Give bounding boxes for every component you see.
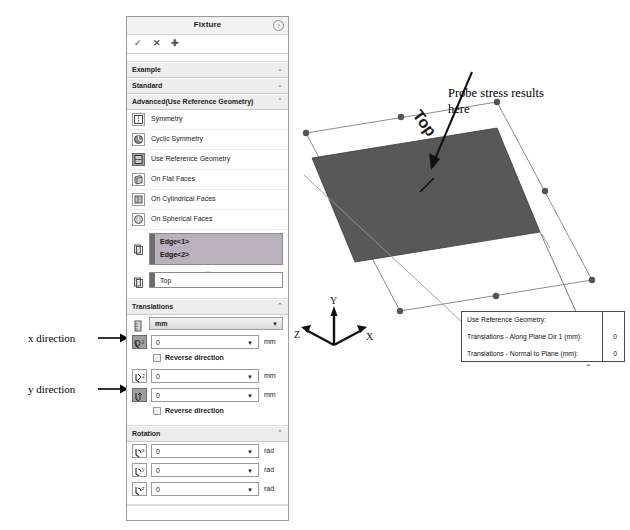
rotation-row-1: x 0 ▼ rad: [127, 442, 288, 461]
reverse-direction-checkbox-2[interactable]: [153, 407, 161, 415]
translation-unit-3: mm: [264, 391, 276, 398]
along-plane-dir2-icon[interactable]: 2: [132, 369, 147, 383]
selection-item-1[interactable]: Edge<1>: [160, 238, 189, 245]
rotation-row-3: z 0 ▼ rad: [127, 480, 288, 499]
rotation-y-icon[interactable]: y: [132, 463, 147, 477]
svg-text:y: y: [142, 466, 145, 472]
probe-annotation-text: Probe stress results here: [448, 86, 544, 116]
selection-color-bar: [150, 234, 155, 264]
translation-input-1[interactable]: 0 ▼: [151, 335, 259, 349]
section-header-advanced[interactable]: Advanced(Use Reference Geometry) ⌃: [127, 94, 288, 110]
section-header-standard[interactable]: Standard ⌄: [127, 78, 288, 94]
translation-input-2[interactable]: 0 ▼: [151, 369, 259, 383]
rotation-input-1[interactable]: 0 ▼: [151, 444, 259, 458]
chevron-down-icon[interactable]: ▼: [247, 340, 253, 346]
translation-row-3: 0 ▼ mm: [127, 386, 288, 405]
selection-item-2[interactable]: Edge<2>: [160, 251, 189, 258]
help-icon[interactable]: ?: [273, 20, 284, 31]
panel-spacer: [127, 54, 288, 62]
along-plane-dir1-icon[interactable]: 1: [132, 335, 147, 349]
coordinate-triad: Y Z X: [294, 295, 374, 345]
callout-value-1: 0: [613, 333, 617, 340]
reverse-direction-label-2: Reverse direction: [165, 407, 224, 414]
chevron-up-icon[interactable]: ⌃: [277, 97, 283, 105]
page-title: Fixture: [127, 20, 288, 29]
rotation-input-2[interactable]: 0 ▼: [151, 463, 259, 477]
translation-value-2: 0: [156, 373, 160, 380]
chevron-down-icon[interactable]: ▼: [272, 321, 278, 327]
callout-label-2: Translations - Normal to Plane (mm):: [467, 350, 578, 357]
rotation-z-icon[interactable]: z: [132, 482, 147, 496]
units-value: mm: [155, 320, 167, 327]
units-icon: [133, 318, 143, 330]
option-cyclic-symmetry[interactable]: Cyclic Symmetry: [127, 130, 288, 150]
section-header-example[interactable]: Example ⌄: [127, 62, 288, 78]
accept-button[interactable]: ✓: [134, 39, 142, 48]
chevron-down-icon[interactable]: ⌄: [277, 81, 283, 89]
screenshot-root: x direction y direction Fixture ? ✓ ✕ ✚ …: [0, 0, 630, 530]
section-header-rotation[interactable]: Rotation ⌃: [127, 426, 288, 442]
flat-faces-icon: [132, 173, 145, 186]
pin-button[interactable]: ✚: [171, 39, 179, 48]
translation-unit-2: mm: [264, 372, 276, 379]
chevron-down-icon[interactable]: ▼: [247, 449, 253, 455]
rotation-input-3[interactable]: 0 ▼: [151, 482, 259, 496]
selection-color-bar: [150, 273, 155, 287]
svg-text:x: x: [142, 447, 145, 453]
option-on-spherical-faces[interactable]: On Spherical Faces: [127, 210, 288, 230]
chevron-down-icon[interactable]: ⌄: [277, 65, 283, 73]
callout-collapse-chevron[interactable]: ⌃: [585, 363, 592, 372]
advanced-section-body: Symmetry Cyclic Symmetry Use Reference G…: [127, 110, 288, 299]
normal-to-plane-icon[interactable]: [132, 388, 147, 402]
rotation-x-icon[interactable]: x: [132, 444, 147, 458]
callout-value-2: 0: [613, 350, 617, 357]
cancel-button[interactable]: ✕: [153, 39, 161, 48]
rotation-section-body: x 0 ▼ rad y 0 ▼ rad z: [127, 442, 288, 516]
option-label: Use Reference Geometry: [151, 155, 230, 162]
chevron-down-icon[interactable]: ▼: [247, 374, 253, 380]
callout-leader: [540, 232, 578, 316]
option-on-flat-faces[interactable]: On Flat Faces: [127, 170, 288, 190]
chevron-down-icon[interactable]: ▼: [247, 468, 253, 474]
option-label: On Cylindrical Faces: [151, 195, 216, 202]
y-direction-arrow: [98, 382, 128, 396]
edge-selection-row: Edge<1> Edge<2> ⋯: [127, 230, 288, 270]
rotation-row-2: y 0 ▼ rad: [127, 461, 288, 480]
chevron-up-icon[interactable]: ⌃: [277, 302, 283, 310]
callout-row-1: Translations - Along Plane Dir 1 (mm): 0: [462, 329, 624, 346]
panel-footer: [127, 505, 288, 516]
option-use-reference-geometry[interactable]: Use Reference Geometry: [127, 150, 288, 170]
rotation-unit-2: rad: [264, 466, 274, 473]
chevron-up-icon[interactable]: ⌃: [277, 429, 283, 437]
reverse-direction-row-2[interactable]: Reverse direction: [127, 405, 288, 420]
chevron-down-icon[interactable]: ▼: [247, 393, 253, 399]
plane-reference-field[interactable]: Top: [149, 272, 283, 288]
reverse-direction-checkbox-1[interactable]: [153, 354, 161, 362]
reverse-direction-row-1[interactable]: Reverse direction: [127, 352, 288, 367]
x-direction-arrow: [98, 331, 128, 345]
edge-selection-listbox[interactable]: Edge<1> Edge<2>: [149, 233, 283, 265]
plane-reference-row: Top: [127, 270, 288, 292]
svg-text:z: z: [142, 485, 145, 491]
probe-annotation: Probe stress results here: [448, 85, 568, 117]
option-symmetry[interactable]: Symmetry: [127, 110, 288, 130]
section-label-rotation: Rotation: [132, 430, 160, 437]
callout-title: Use Reference Geometry:: [467, 316, 546, 323]
rotation-value-2: 0: [156, 467, 160, 474]
translations-section-body: mm ▼ 1 0 ▼ mm Reverse direction: [127, 315, 288, 426]
section-header-translations[interactable]: Translations ⌃: [127, 299, 288, 315]
triad-label-y: Y: [330, 295, 337, 306]
edge-selection-icon: [132, 242, 145, 255]
svg-text:1: 1: [142, 339, 145, 345]
rotation-value-3: 0: [156, 486, 160, 493]
option-on-cylindrical-faces[interactable]: On Cylindrical Faces: [127, 190, 288, 210]
section-label-standard: Standard: [132, 82, 162, 89]
units-select[interactable]: mm ▼: [149, 317, 283, 330]
callout-label-1: Translations - Along Plane Dir 1 (mm):: [467, 333, 582, 340]
svg-text:2: 2: [142, 373, 145, 379]
section-label-example: Example: [132, 66, 161, 73]
translation-value-1: 0: [156, 339, 160, 346]
translation-input-3[interactable]: 0 ▼: [151, 388, 259, 402]
chevron-down-icon[interactable]: ▼: [247, 487, 253, 493]
triad-label-z: Z: [294, 329, 300, 340]
